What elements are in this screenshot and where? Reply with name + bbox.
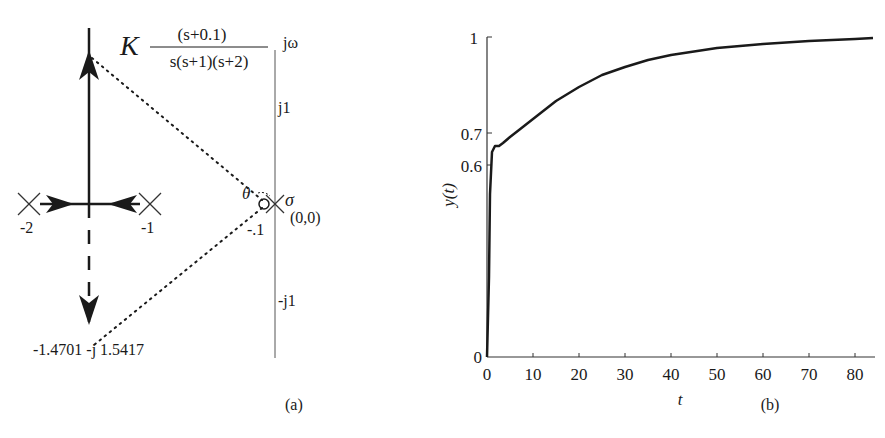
- svg-text:30: 30: [617, 365, 634, 384]
- label-jw: jω: [282, 34, 298, 52]
- caption-a: (a): [285, 396, 303, 414]
- upper-asymptote: [92, 58, 262, 200]
- step-response-curve: [487, 38, 873, 357]
- label-pole-neg2: -2: [20, 219, 33, 236]
- ytick-label-1: 1: [470, 29, 479, 48]
- label-theta: θ: [242, 184, 250, 203]
- ytick-label-0.7: 0.7: [461, 125, 483, 144]
- svg-text:10: 10: [525, 365, 542, 384]
- svg-text:50: 50: [709, 365, 726, 384]
- label-sigma: σ: [285, 190, 295, 210]
- label-j1: j1: [277, 99, 290, 117]
- x-tick-labels: 0 10 20 30 40 50 60 70 80: [483, 365, 864, 384]
- tf-numerator: (s+0.1): [178, 25, 227, 44]
- label-neg-j1: -j1: [278, 292, 296, 310]
- caption-b: (b): [761, 396, 780, 414]
- tf-denominator: s(s+1)(s+2): [170, 52, 249, 71]
- zero-marker: [259, 199, 269, 209]
- ytick-label-0.6: 0.6: [461, 157, 482, 176]
- ytick-label-0: 0: [474, 348, 483, 367]
- label-zero: -.1: [247, 221, 264, 238]
- label-pole-neg1: -1: [141, 219, 154, 236]
- label-asymptote-point: -1.4701 -j 1.5417: [33, 341, 144, 359]
- step-response-panel: 1 0.7 0.6 0 0 10 20 30 40 50 60 70 80 t …: [439, 29, 875, 414]
- figure-canvas: K (s+0.1) s(s+1)(s+2) jω j1 -j1 σ (0,0) …: [0, 0, 885, 438]
- tf-gain: K: [119, 30, 140, 61]
- root-locus-panel: K (s+0.1) s(s+1)(s+2) jω j1 -j1 σ (0,0) …: [18, 25, 321, 414]
- y-axis-label: y(t): [439, 183, 458, 209]
- svg-text:0: 0: [483, 365, 492, 384]
- arrow-down-icon: [79, 295, 99, 325]
- svg-text:40: 40: [663, 365, 680, 384]
- theta-angle-arc: [258, 192, 270, 196]
- svg-text:80: 80: [847, 365, 864, 384]
- pole-marker-neg2: [18, 193, 40, 215]
- svg-text:60: 60: [755, 365, 772, 384]
- svg-text:20: 20: [571, 365, 588, 384]
- lower-asymptote: [94, 208, 262, 345]
- pole-marker-neg1: [139, 193, 161, 215]
- svg-text:70: 70: [801, 365, 818, 384]
- label-origin: (0,0): [290, 209, 321, 227]
- x-axis-label: t: [678, 390, 684, 409]
